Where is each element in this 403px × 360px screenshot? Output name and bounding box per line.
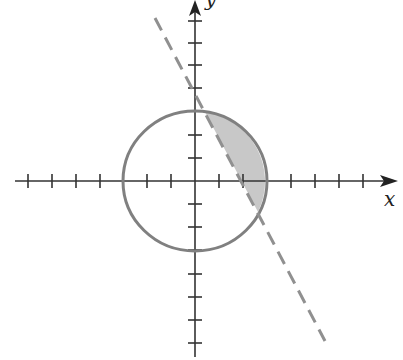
coordinate-diagram: x y (0, 0, 403, 360)
y-axis-label: y (204, 0, 217, 11)
dashed-line (155, 18, 325, 341)
x-axis-label: x (384, 187, 395, 211)
